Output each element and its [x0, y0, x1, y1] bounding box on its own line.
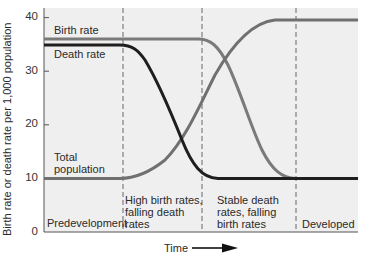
- total-population-label-line2: population: [54, 163, 105, 175]
- y-tick-10: 10: [14, 171, 38, 183]
- y-tick-20: 20: [14, 117, 38, 129]
- stage-3-label-line3: birth rates: [217, 218, 266, 230]
- time-arrow-head-icon: [222, 244, 238, 253]
- y-tick-30: 30: [14, 64, 38, 76]
- y-tick-40: 40: [14, 10, 38, 22]
- stage-predevelopment-label: Predevelopment: [47, 217, 127, 229]
- stage-3-label-line1: Stable death: [217, 194, 279, 206]
- y-axis-label: Birth rate or death rate per 1,000 popul…: [1, 23, 13, 236]
- stage-2-label-line2: falling death: [125, 206, 184, 218]
- x-axis-label-time: Time: [164, 242, 188, 254]
- death-rate-label: Death rate: [54, 48, 105, 60]
- stage-2-label-line1: High birth rates,: [125, 194, 203, 206]
- total-population-label-line1: Total: [54, 151, 77, 163]
- stage-2-label-line3: rates: [125, 218, 149, 230]
- birth-rate-label: Birth rate: [54, 24, 99, 36]
- stage-developed-label: Developed: [302, 218, 355, 230]
- stage-3-label-line2: rates, falling: [217, 206, 276, 218]
- y-tick-0: 0: [14, 225, 38, 237]
- demographic-transition-chart: 40 30 20 10 0 Birth rate or death rate p…: [0, 0, 370, 264]
